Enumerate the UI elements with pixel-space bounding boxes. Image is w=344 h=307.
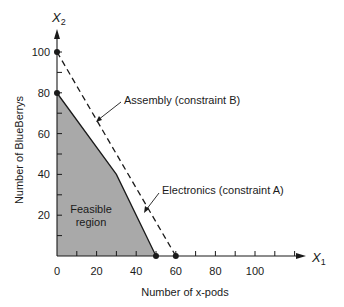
x-tick-label: 0 (54, 265, 60, 277)
chart-svg: 0 20 40 60 80 100 20 40 60 80 100 X2 X1 … (0, 0, 344, 307)
y-axis-arrow-icon (54, 29, 60, 39)
y-tick-label: 40 (38, 168, 50, 180)
x-tick-label: 40 (130, 265, 142, 277)
y-tick-label: 100 (32, 46, 50, 58)
point-0-100 (54, 49, 60, 55)
assembly-annotation-arrow (98, 102, 121, 120)
linear-programming-chart: 0 20 40 60 80 100 20 40 60 80 100 X2 X1 … (0, 0, 344, 307)
electronics-annotation-arrow (146, 193, 159, 210)
x-tick-label: 100 (246, 265, 264, 277)
assembly-arrowhead-icon (96, 116, 102, 122)
y-tick-label: 20 (38, 209, 50, 221)
y-tick-label: 80 (38, 87, 50, 99)
y-tick-label: 60 (38, 128, 50, 140)
point-50-0 (153, 253, 159, 259)
x-tick-label: 60 (170, 265, 182, 277)
point-0-80 (54, 90, 60, 96)
feasible-region-label-line2: region (76, 216, 107, 228)
point-60-0 (173, 253, 179, 259)
feasible-region (57, 93, 156, 256)
assembly-constraint-label: Assembly (constraint B) (124, 94, 240, 106)
y-axis-title: Number of BlueBerrys (13, 95, 25, 204)
feasible-region-label-line1: Feasible (70, 203, 112, 215)
x-axis-arrow-icon (296, 253, 306, 259)
x-variable-label: X1 (311, 250, 326, 267)
electronics-constraint-label: Electronics (constraint A) (162, 184, 284, 196)
x-axis-title: Number of x-pods (141, 286, 229, 298)
y-variable-label: X2 (51, 10, 66, 27)
x-tick-label: 20 (90, 265, 102, 277)
x-tick-label: 80 (209, 265, 221, 277)
